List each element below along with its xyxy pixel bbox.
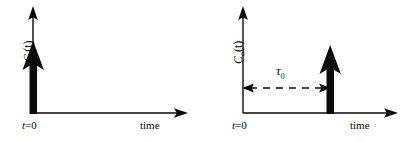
- x-axis-output: [243, 108, 398, 118]
- delay-label-tau: τ0: [276, 64, 285, 81]
- impulse-arrow-output: [320, 45, 341, 114]
- x-axis-label-output: time: [350, 120, 370, 131]
- impulse-response-figure: Ci(t) t=0 time: [0, 0, 420, 142]
- y-axis-label-output: Co(t): [232, 41, 247, 64]
- panel-input: Ci(t) t=0 time: [0, 0, 210, 142]
- x-axis-input: [33, 108, 188, 118]
- delay-dashed-arrow: [242, 84, 331, 93]
- origin-label-output: t=0: [232, 120, 247, 131]
- panel-output: Co(t) τ0 t=0 time: [210, 0, 420, 142]
- origin-label-input: t=0: [22, 120, 37, 131]
- y-axis-label-input: Ci(t): [22, 40, 37, 62]
- x-axis-label-input: time: [140, 120, 160, 131]
